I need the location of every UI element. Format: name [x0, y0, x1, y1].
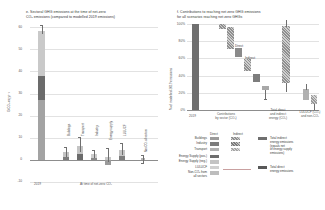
bar-2019-seg-upper	[38, 31, 45, 75]
legend-swatch-non-co2	[210, 171, 219, 174]
whisker-cap-energy-supply	[106, 148, 109, 149]
legend-swatch-energy-supply-neg	[210, 160, 219, 163]
annotation-direct: Direct	[235, 44, 243, 48]
legend-label-lulucf: LULUCF	[165, 166, 207, 170]
whisker-cap-non-co2-low	[141, 163, 144, 164]
xlabel-industry: Industry	[95, 125, 99, 136]
whisker-industry	[94, 150, 95, 158]
panel-b-ytick-5: 0%	[169, 108, 185, 112]
legend-swatch-total-direct	[258, 166, 267, 169]
gridline-30	[30, 94, 158, 95]
gridline-20	[30, 116, 158, 117]
legend-swatch-transport-direct	[210, 148, 219, 151]
whisker-2019	[42, 25, 43, 34]
legend-label-energy-supply-neg: Energy Supply (neg.)	[165, 160, 207, 164]
panel-a-plot-area	[30, 22, 158, 172]
xlabel-non-co2: Non-CO₂ all sectors	[145, 129, 148, 152]
panel-a-ytick-1: 50	[10, 47, 22, 51]
legend-swatch-industry-direct	[210, 142, 219, 145]
group-label-sector: Contributions by sector (CO₂)	[209, 112, 243, 120]
bar-buildings-seg-bottom	[63, 157, 69, 160]
xlabel-energy-supply: Energy supply	[109, 121, 113, 140]
legend-label-energy-supply-pos: Energy Supply (pos.)	[165, 155, 207, 159]
panel-sectoral-ghg: e. Sectoral GHG emissions at the time of…	[0, 0, 163, 210]
legend-label-buildings: Buildings	[165, 137, 207, 141]
panel-b-baseline-label: 2019	[189, 114, 196, 118]
bar-step-energy-supply	[244, 59, 251, 71]
bar-total-energy	[282, 26, 290, 83]
legend-label-industry: Industry	[165, 142, 207, 146]
gridline-10	[30, 138, 158, 139]
legend-header-direct: Direct	[210, 132, 218, 136]
gridline-40	[30, 71, 158, 72]
panel-a-ytick-5: 10	[10, 135, 22, 139]
whisker-cap-transport	[78, 137, 81, 138]
xlabel-buildings: Buildings	[67, 124, 71, 136]
panel-b-ytick-3: 40%	[169, 74, 185, 78]
bar-2019-seg-lower	[38, 100, 45, 160]
annotation-indirect: Indirect	[245, 56, 255, 60]
whisker-energy-supply	[108, 148, 109, 162]
bar-step-buildings	[219, 24, 226, 29]
legend-note-total-indirect: Total indirect energy emissions (equals …	[258, 137, 314, 156]
bar-2019-baseline	[192, 24, 199, 110]
legend-text-total-direct: Total direct energy emissions	[270, 166, 314, 174]
whisker-lulucf	[122, 143, 123, 155]
panel-a-ytick-7: -10	[8, 179, 22, 183]
whisker-total-energy-bottom	[286, 83, 287, 92]
whisker-step-residual	[265, 90, 266, 99]
legend-connector-rule	[223, 169, 251, 170]
group-label-lulucf-nonco2: LULUCF (CO₂) and non-CO₂	[296, 110, 324, 118]
legend-row-lulucf[interactable]: LULUCF	[165, 166, 219, 170]
legend-header-indirect: Indirect	[233, 132, 243, 136]
bar-step-transport	[235, 48, 242, 57]
gridline-50	[30, 49, 158, 50]
whisker-non-co2	[143, 155, 144, 163]
whisker-cap-step-residual	[264, 99, 267, 100]
legend-label-non-co2: Non-CO₂ from all sectors	[165, 171, 207, 178]
gridline-100pct	[187, 24, 319, 25]
legend-swatch-industry-indirect	[231, 142, 240, 145]
bar-2019	[38, 31, 45, 160]
panel-a-ytick-6: 0	[10, 157, 22, 161]
panel-a-zero-axis	[30, 160, 158, 161]
bar-transport-seg-bottom	[77, 154, 83, 160]
legend-row-energy-supply-neg[interactable]: Energy Supply (neg.)	[165, 160, 219, 164]
legend-swatch-buildings-direct	[210, 137, 219, 140]
whisker-lulucf-co2	[306, 84, 307, 90]
whisker-cap-buildings	[64, 147, 67, 148]
legend-row-energy-supply-pos[interactable]: Energy Supply (pos.)	[165, 155, 219, 159]
bar-step-industry	[227, 27, 234, 49]
legend-swatch-total-indirect	[258, 137, 267, 140]
panel-b-ytick-0: 100%	[169, 22, 185, 26]
legend-swatch-energy-supply-pos	[210, 155, 219, 158]
bar-step-other	[253, 74, 260, 82]
panel-a-ytick-0: 60	[10, 25, 22, 29]
legend-label-transport: Transport	[165, 148, 207, 152]
legend-row-transport[interactable]: Transport	[165, 148, 240, 152]
panel-b-ytick-2: 60%	[169, 56, 185, 60]
legend-root: Direct Indirect Buildings Industry Trans…	[163, 130, 325, 210]
panel-a-ytick-3: 30	[10, 91, 22, 95]
figure-root: e. Sectoral GHG emissions at the time of…	[0, 0, 325, 210]
whisker-cap-lulucf	[120, 143, 123, 144]
panel-a-ytick-2: 40	[10, 69, 22, 73]
whisker-buildings	[66, 147, 67, 157]
legend-note-total-direct: Total direct energy emissions	[258, 166, 314, 174]
legend-row-non-co2[interactable]: Non-CO₂ from all sectors	[165, 171, 219, 178]
legend-row-buildings[interactable]: Buildings	[165, 137, 240, 141]
legend-text-total-indirect: Total indirect energy emissions (equals …	[270, 137, 314, 156]
bar-non-co2	[311, 95, 317, 104]
bar-lulucf-co2	[303, 89, 309, 100]
panel-a-x-caption: At time of net-zero CO₂	[80, 182, 112, 186]
gridline-20pct	[187, 93, 319, 94]
whisker-cap-non-co2	[141, 155, 144, 156]
panel-b-ytick-4: 20%	[169, 91, 185, 95]
group-label-total-energy: Total direct and indirect energy (CO₂)	[263, 108, 293, 120]
whisker-transport	[80, 137, 81, 152]
panel-a-title-line2: CO₂ emissions (compared to modelled 2019…	[26, 15, 158, 20]
panel-b-ytick-1: 80%	[169, 39, 185, 43]
legend-row-industry[interactable]: Industry	[165, 142, 240, 146]
legend-swatch-lulucf	[210, 166, 219, 169]
bar-2019-seg-mid	[38, 76, 45, 100]
